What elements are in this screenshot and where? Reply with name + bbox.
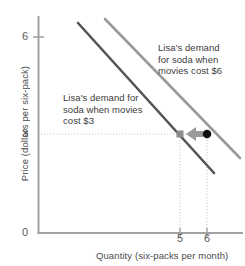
origin-label: 0 <box>22 227 28 238</box>
annotation-demand-movies-6: Lisa's demand for soda when movies cost … <box>158 42 244 77</box>
point-marker-quantity-6 <box>203 130 212 139</box>
annotation-left-line-1: Lisa's demand for <box>63 92 153 104</box>
x-axis-tick-label-6: 6 <box>204 233 210 244</box>
x-axis-title: Quantity (six-packs per month) <box>96 250 228 261</box>
demand-shift-arrow <box>186 127 203 141</box>
x-axis-tick-label-5: 5 <box>177 233 183 244</box>
chart-plot-area <box>0 0 245 266</box>
guide-lines <box>38 134 207 233</box>
demand-curve-chart: 6 3 0 5 6 Price (dollars per six-pack) Q… <box>0 0 245 266</box>
demand-curve-movies-6 <box>105 19 240 158</box>
y-axis-tick-label-6: 6 <box>22 31 28 42</box>
annotation-demand-movies-3: Lisa's demand for soda when movies cost … <box>63 92 153 127</box>
y-axis-title: Price (dollars per six-pack) <box>19 54 30 194</box>
annotation-right-line-2: for soda when <box>158 54 244 66</box>
annotation-left-line-3: cost $3 <box>63 115 153 127</box>
annotation-left-line-2: soda when movies <box>63 104 153 116</box>
point-marker-quantity-5 <box>177 131 184 138</box>
annotation-right-line-1: Lisa's demand <box>158 42 244 54</box>
annotation-right-line-3: movies cost $6 <box>158 65 244 77</box>
